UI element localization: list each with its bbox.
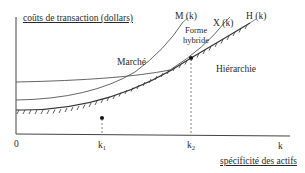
x-axis (16, 134, 290, 136)
tick-k2: k2 (187, 140, 195, 153)
curve-label-h: H (k) (246, 11, 266, 21)
region-label-hybrid-line1: Forme (185, 25, 207, 35)
curve-label-m: M (k) (175, 11, 197, 21)
region-label-hybrid-line2: hybride (183, 35, 209, 45)
tick-k1-sub: 1 (103, 144, 106, 151)
tick-k1: k1 (98, 140, 106, 153)
origin-label: 0 (14, 139, 19, 149)
region-label-hierarchy: Hiérarchie (216, 64, 256, 74)
tick-k2-sub: 2 (192, 144, 195, 151)
x-axis-symbol: k (278, 141, 283, 151)
y-axis-label: coûts de transaction (dollars) (23, 13, 133, 23)
diagram-canvas (0, 0, 305, 173)
curve-label-x: X (k) (213, 18, 233, 28)
curve-m-market (16, 22, 183, 100)
hatching (17, 25, 247, 114)
region-label-market: Marché (117, 57, 146, 67)
x-axis-label: spécificité des actifs (220, 156, 297, 166)
